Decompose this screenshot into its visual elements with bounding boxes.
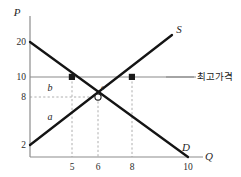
chart-canvas: P Q S D 20 10 8 2 5 6 8 10 b a c 최고가격 [0,0,241,177]
x-axis-label: Q [205,150,213,162]
x-tick-label-6: 6 [96,162,101,172]
supply-curve-label: S [176,23,182,35]
y-tick-label-8: 8 [21,92,26,102]
supply-at-ceiling-marker [129,74,135,80]
y-tick-label-2: 2 [21,140,26,150]
y-tick-label-10: 10 [17,72,27,82]
region-a-label: a [48,111,53,122]
equilibrium-point-marker [95,94,101,100]
x-tick-label-10: 10 [183,162,193,172]
demand-curve [30,42,188,157]
demand-curve-label: D [181,141,190,153]
y-axis-label: P [13,6,21,18]
x-tick-label-8: 8 [130,162,135,172]
equilibrium-point-label: c [101,82,105,92]
region-b-label: b [48,82,53,93]
supply-demand-chart: P Q S D 20 10 8 2 5 6 8 10 b a c 최고가격 [0,0,241,177]
price-ceiling-annotation: 최고가격 [197,71,233,82]
x-tick-label-5: 5 [70,162,75,172]
dashed-guides [30,77,132,157]
y-tick-label-20: 20 [17,37,27,47]
demand-at-ceiling-marker [69,74,75,80]
